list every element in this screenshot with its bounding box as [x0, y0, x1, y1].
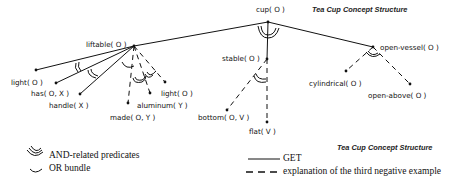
legend-dashed-label: explanation of the third negative exampl… — [283, 166, 441, 176]
node-made: made( O, Y ) — [110, 113, 155, 122]
edge-open-vessel-open-above — [373, 47, 410, 84]
node-liftable: liftable( O ) — [86, 40, 126, 49]
node-flat: flat( V ) — [249, 127, 276, 136]
legend-or-icon — [30, 169, 42, 172]
node-cylindrical: cylindrical( O ) — [309, 79, 361, 88]
diagram-title-top: Tea Cup Concept Structure — [312, 5, 407, 14]
edge-liftable-made — [128, 46, 134, 103]
node-light-2: light( O ) — [161, 89, 193, 98]
edge-cup-liftable — [134, 22, 268, 46]
legend-or-label: OR bundle — [49, 163, 90, 173]
and-arc-liftable-has — [88, 70, 96, 78]
node-cup: cup( O ) — [256, 5, 285, 14]
edge-cup-stable — [267, 22, 268, 59]
legend-solid-label: GET — [283, 153, 301, 163]
legend-and-label: AND-related predicates — [49, 150, 139, 160]
edge-stable-bottom — [227, 59, 267, 110]
node-light: light( O ) — [11, 78, 43, 87]
node-bottom: bottom( O, V ) — [198, 113, 249, 122]
node-stable: stable( O ) — [222, 54, 260, 63]
edge-liftable-aluminum — [134, 46, 150, 93]
diagram-title-bottom: Tea Cup Concept Structure — [337, 143, 432, 152]
node-handle: handle( X ) — [49, 101, 89, 110]
edge-open-vessel-cylindrical — [346, 47, 373, 71]
node-open-vessel: open-vessel( O ) — [380, 43, 439, 52]
and-arc-liftable-left — [75, 63, 78, 72]
edge-cup-open-vessel — [268, 22, 373, 47]
node-open-above: open-above( O ) — [368, 91, 426, 100]
node-aluminum: aluminum( Y ) — [137, 101, 188, 110]
edge-liftable-light2 — [134, 46, 165, 82]
node-has: has( O, X ) — [31, 89, 69, 98]
edge-liftable-left — [36, 46, 134, 70]
